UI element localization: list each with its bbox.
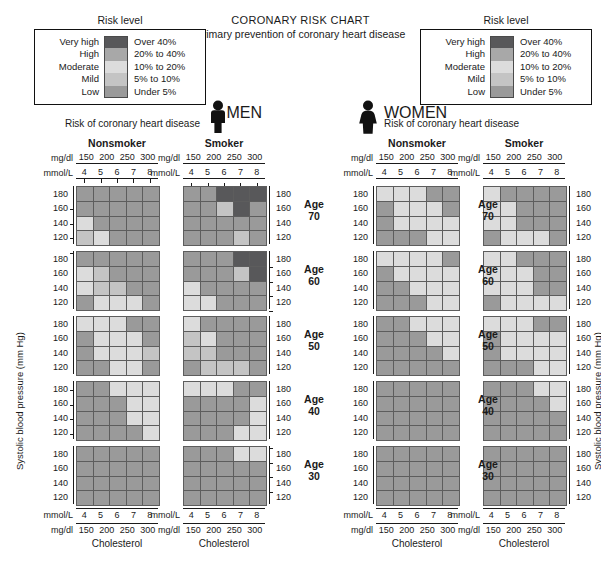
mgdl-axis-rule-bottom [183, 523, 265, 524]
age-label-men-60: Age60 [287, 263, 341, 287]
risk-cell [517, 477, 533, 491]
risk-cell [143, 447, 159, 461]
risk-cell [427, 447, 443, 461]
risk-cell [184, 252, 200, 266]
risk-cell [110, 296, 126, 310]
y-tick-label: 120 [576, 295, 598, 310]
risk-cell [410, 426, 426, 440]
y-tick-label: 120 [276, 230, 298, 245]
y-tick-label: 180 [576, 317, 598, 332]
risk-cell [201, 447, 217, 461]
legend-row: LowUnder 5% [427, 86, 583, 98]
age-label-women-40: Age40 [461, 393, 515, 417]
mgdl-unit-label: mg/dl [440, 153, 480, 163]
risk-cell [127, 296, 143, 310]
risk-cell [410, 252, 426, 266]
mmol-tick-labels: 45678 [183, 167, 265, 177]
risk-cell [377, 477, 393, 491]
risk-cell [517, 382, 533, 396]
y-tick-label: 160 [576, 461, 598, 476]
risk-cell [201, 252, 217, 266]
risk-cell [77, 477, 93, 491]
y-axis-line-left [73, 251, 74, 309]
risk-cell [94, 447, 110, 461]
y-tick-labels-left: 180160140120 [346, 252, 368, 310]
y-tick-label: 160 [576, 201, 598, 216]
risk-cell [427, 412, 443, 426]
risk-cell [443, 252, 459, 266]
risk-cell [127, 361, 143, 375]
risk-cell [550, 462, 566, 476]
mgdl-tick: 200 [504, 525, 525, 535]
risk-cell [443, 317, 459, 331]
risk-cell [110, 317, 126, 331]
risk-cell [550, 217, 566, 231]
mmol-axis-rule-bottom [376, 508, 458, 509]
risk-cell [143, 397, 159, 411]
risk-cell [127, 317, 143, 331]
y-axis-line-right [269, 316, 270, 374]
risk-cell [410, 231, 426, 245]
mmol-tick: 5 [92, 167, 108, 177]
age-label-prefix: Age [287, 393, 341, 405]
risk-cell [410, 187, 426, 201]
risk-cell [77, 317, 93, 331]
mgdl-tick: 200 [97, 525, 118, 535]
risk-cell [517, 252, 533, 266]
risk-cell [394, 282, 410, 296]
risk-cell [234, 231, 250, 245]
mgdl-tick: 300 [245, 525, 266, 535]
risk-cell [394, 447, 410, 461]
mmol-tick: 7 [532, 167, 548, 177]
y-tick-label: 120 [346, 360, 368, 375]
risk-cell [201, 397, 217, 411]
risk-cell [110, 477, 126, 491]
y-axis-line-right [569, 316, 570, 374]
age-label-women-60: Age60 [461, 263, 515, 287]
risk-cell [77, 282, 93, 296]
y-tick-labels-right: 180160140120 [576, 187, 598, 245]
risk-cell [410, 282, 426, 296]
risk-cell [94, 347, 110, 361]
risk-cell [410, 347, 426, 361]
risk-cell [517, 447, 533, 461]
risk-cell [143, 361, 159, 375]
legend-color-swatch [490, 73, 514, 85]
y-tick-label: 180 [46, 382, 68, 397]
mgdl-tick: 300 [545, 152, 566, 162]
risk-cell [201, 491, 217, 505]
y-tick-label: 180 [576, 187, 598, 202]
risk-cell [110, 447, 126, 461]
age-label-prefix: Age [461, 198, 515, 210]
risk-cell [443, 217, 459, 231]
mgdl-tick: 150 [183, 152, 204, 162]
risk-cell [394, 426, 410, 440]
risk-cell [427, 397, 443, 411]
legend-risk-label: Mild [41, 73, 104, 85]
risk-grid-men-nonsmoker-age-70 [76, 186, 160, 246]
risk-level-legend-right: Risk level Very highOver 40%High20% to 4… [420, 14, 592, 105]
risk-cell [143, 217, 159, 231]
risk-cell [427, 252, 443, 266]
risk-cell [94, 426, 110, 440]
risk-cell [443, 397, 459, 411]
risk-cell [77, 231, 93, 245]
risk-cell [184, 296, 200, 310]
risk-cell [201, 477, 217, 491]
risk-cell [184, 347, 200, 361]
risk-cell [94, 361, 110, 375]
risk-cell [201, 347, 217, 361]
risk-cell [234, 187, 250, 201]
risk-cell [94, 231, 110, 245]
mmol-tick: 4 [483, 510, 499, 520]
risk-cell [77, 347, 93, 361]
mgdl-tick: 200 [97, 152, 118, 162]
legend-risk-range: Over 40% [128, 36, 197, 48]
risk-cell [484, 361, 500, 375]
risk-cell [394, 317, 410, 331]
risk-cell [201, 412, 217, 426]
risk-cell [410, 202, 426, 216]
risk-cell [394, 347, 410, 361]
legend-row: Moderate10% to 20% [427, 61, 583, 73]
risk-cell [377, 332, 393, 346]
